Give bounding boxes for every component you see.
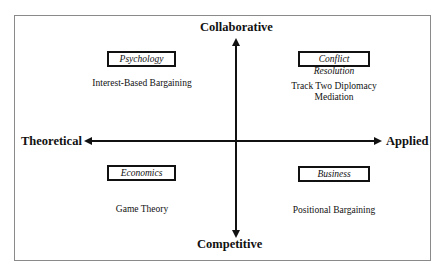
approach-positional-bargaining: Positional Bargaining [284, 205, 384, 216]
axis-label-bottom: Competitive [197, 237, 262, 252]
axis-label-top: Collaborative [200, 20, 273, 35]
axis-label-right: Applied [386, 134, 428, 149]
discipline-box-economics: Economics [107, 165, 176, 181]
discipline-box-business: Business [298, 166, 370, 182]
approach-interest-based-bargaining: Interest-Based Bargaining [92, 78, 192, 89]
discipline-box-psychology: Psychology [107, 51, 176, 67]
approach-track-two-diplomacy: Track Two Diplomacy [284, 81, 384, 92]
discipline-box-conflict-resolution: Conflict Resolution [298, 51, 370, 67]
approach-mediation: Mediation [284, 92, 384, 103]
axis-label-left: Theoretical [21, 134, 82, 149]
approach-game-theory: Game Theory [92, 204, 192, 215]
